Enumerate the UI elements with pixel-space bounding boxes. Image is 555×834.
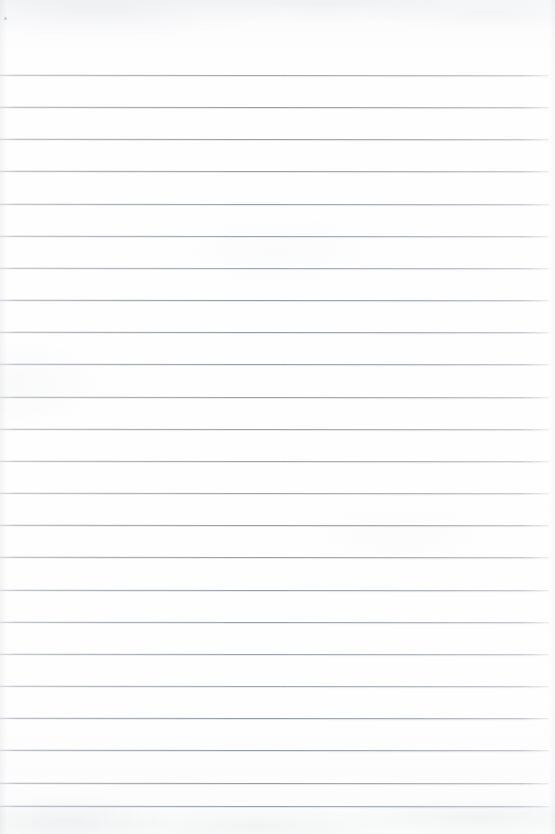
page-text-content — [0, 0, 555, 834]
paper-page — [0, 0, 555, 834]
